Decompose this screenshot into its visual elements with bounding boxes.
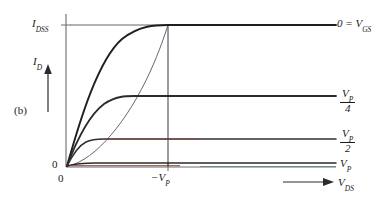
curve-vp-over-4	[67, 96, 336, 166]
panel-label: (b)	[14, 105, 27, 116]
curve-label-vgs-zero-sub: GS	[362, 25, 371, 34]
x-tick-label-minus-vp-sub: P	[165, 179, 170, 188]
y-tick-label-idss: IDSS	[32, 18, 49, 32]
x-axis-label-base: V	[338, 176, 345, 188]
fraction-vp-over-4: VP 4	[340, 88, 355, 115]
fraction-denominator: 4	[340, 103, 355, 115]
vds-axis-arrow	[283, 178, 334, 186]
fraction-numerator: VP	[340, 88, 355, 102]
curve-label-vp-over-4: VP 4	[340, 88, 355, 115]
curve-label-vp-base: V	[340, 157, 347, 169]
fraction-numerator-base: V	[342, 87, 349, 99]
curve-label-vp-over-2: VP 2	[340, 128, 355, 155]
fraction-numerator-base: V	[342, 127, 349, 139]
x-tick-label-minus-vp-base: −V	[151, 171, 165, 183]
x-axis-label: VDS	[338, 177, 354, 191]
fraction-denominator: 2	[340, 143, 355, 155]
y-tick-label-idss-sub: DSS	[36, 25, 49, 34]
origin-label-y: 0	[52, 159, 58, 170]
origin-label-x: 0	[58, 173, 64, 184]
x-axis-label-sub: DS	[345, 184, 354, 193]
y-axis-label: ID	[33, 56, 42, 70]
curve-label-vp-sub: P	[347, 165, 352, 174]
y-axis-label-sub: D	[37, 63, 42, 72]
fraction-numerator-sub: P	[349, 135, 354, 144]
fraction-vp-over-2: VP 2	[340, 128, 355, 155]
fraction-numerator-sub: P	[349, 95, 354, 104]
curve-vp-over-2	[67, 139, 336, 166]
fraction-numerator: VP	[340, 128, 355, 142]
jfet-characteristics-figure: (b) IDSS ID 0 0 −VP 0 = VGS VP 4 VP 2 VP	[0, 0, 380, 200]
plot-canvas	[0, 0, 380, 200]
curve-label-vp: VP	[340, 158, 351, 172]
curve-label-vgs-zero: 0 = VGS	[337, 18, 371, 32]
x-tick-label-minus-vp: −VP	[151, 172, 170, 186]
id-axis-arrow	[44, 64, 52, 112]
curve-label-vgs-zero-base: 0 = V	[337, 17, 362, 29]
